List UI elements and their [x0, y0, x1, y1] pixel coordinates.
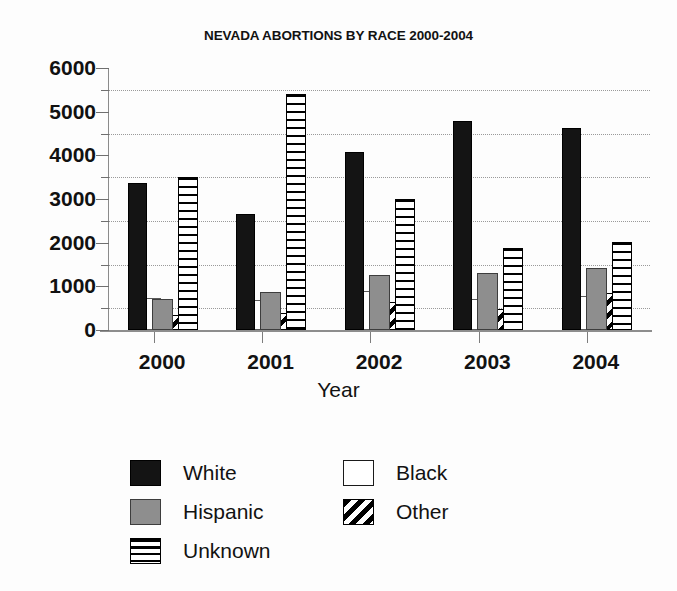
- x-axis-baseline: [100, 330, 652, 332]
- legend-column-left: WhiteHispanicUnknown: [130, 455, 271, 572]
- y-axis-tick-label: 2000: [6, 232, 96, 253]
- legend-item-white[interactable]: White: [130, 455, 271, 491]
- x-tick: [587, 332, 588, 343]
- legend-label: White: [183, 461, 237, 485]
- bar-unknown-2001[interactable]: [286, 94, 306, 330]
- bar-unknown-2004[interactable]: [612, 242, 632, 330]
- bar-unknown-2002[interactable]: [395, 199, 415, 330]
- legend-item-other[interactable]: Other: [343, 494, 449, 530]
- legend-swatch-hispanic-icon: [130, 499, 161, 525]
- y-axis-tick-label: 5000: [6, 101, 96, 122]
- bar-white-2001[interactable]: [236, 214, 255, 330]
- legend-label: Hispanic: [183, 500, 264, 524]
- y-axis-tick-label: 4000: [6, 144, 96, 165]
- legend-swatch-black-icon: [343, 460, 374, 486]
- x-axis-tick-label: 2000: [107, 350, 217, 374]
- bar-hispanic-2000[interactable]: [152, 299, 173, 330]
- bar-group: [216, 68, 324, 330]
- y-axis-labels: 0100020003000400050006000: [0, 68, 96, 330]
- bar-group: [108, 68, 216, 330]
- y-axis-tick-label: 3000: [6, 188, 96, 209]
- legend-item-hispanic[interactable]: Hispanic: [130, 494, 271, 530]
- legend-column-right: BlackOther: [343, 455, 449, 533]
- x-tick: [154, 332, 155, 343]
- bar-white-2003[interactable]: [453, 121, 472, 330]
- bar-group: [325, 68, 433, 330]
- chart-title: NEVADA ABORTIONS BY RACE 2000-2004: [0, 28, 677, 43]
- legend-label: Unknown: [183, 539, 271, 563]
- x-axis-tick-label: 2003: [432, 350, 542, 374]
- bar-unknown-2003[interactable]: [503, 248, 523, 330]
- chart-root: NEVADA ABORTIONS BY RACE 2000-2004 01000…: [0, 0, 677, 591]
- legend-label: Other: [396, 500, 449, 524]
- bar-hispanic-2001[interactable]: [260, 292, 281, 330]
- legend-swatch-white-icon: [130, 460, 161, 486]
- x-axis-tick-label: 2002: [324, 350, 434, 374]
- x-tick: [262, 332, 263, 343]
- bar-hispanic-2002[interactable]: [369, 275, 390, 330]
- x-axis-title: Year: [0, 378, 677, 402]
- bar-group: [433, 68, 541, 330]
- y-axis-tick-label: 6000: [6, 57, 96, 78]
- y-axis-tick-label: 1000: [6, 275, 96, 296]
- bar-white-2004[interactable]: [562, 128, 581, 330]
- legend-item-black[interactable]: Black: [343, 455, 449, 491]
- x-axis-tick-label: 2001: [216, 350, 326, 374]
- bar-white-2000[interactable]: [128, 183, 147, 330]
- legend-item-unknown[interactable]: Unknown: [130, 533, 271, 569]
- y-axis-tick-label: 0: [6, 319, 96, 340]
- plot-area: [108, 68, 650, 330]
- y-tick-major: [96, 330, 109, 331]
- bar-unknown-2000[interactable]: [178, 177, 198, 330]
- bar-hispanic-2004[interactable]: [586, 268, 607, 330]
- bar-white-2002[interactable]: [345, 152, 364, 330]
- x-tick: [479, 332, 480, 343]
- x-tick: [370, 332, 371, 343]
- x-axis-tick-label: 2004: [541, 350, 651, 374]
- bar-group: [542, 68, 650, 330]
- legend-swatch-other-icon: [343, 499, 374, 525]
- bar-hispanic-2003[interactable]: [477, 273, 498, 330]
- legend-swatch-unknown-icon: [130, 538, 161, 564]
- legend-label: Black: [396, 461, 447, 485]
